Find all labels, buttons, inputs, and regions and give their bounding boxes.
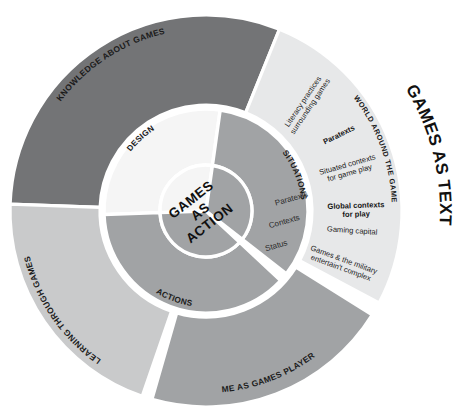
games-wheel-diagram: KNOWLEDGE ABOUT GAMESME AS GAMES PLAYERL… bbox=[0, 0, 455, 419]
detail-label-line: for play bbox=[342, 209, 371, 219]
edge-title-text: GAMES AS TEXT bbox=[402, 81, 455, 227]
wheel-svg: KNOWLEDGE ABOUT GAMESME AS GAMES PLAYERL… bbox=[0, 0, 455, 419]
